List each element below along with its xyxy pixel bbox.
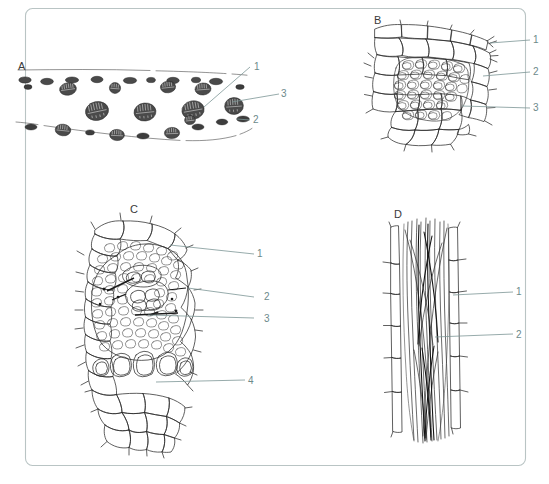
panel-d-letter: D [394, 208, 402, 220]
panel-a-label-1: 1 [254, 61, 260, 72]
plate-caption [0, 475, 549, 484]
panel-c-letter: C [130, 203, 138, 215]
plate-background [0, 0, 549, 484]
panel-c-label-2: 2 [264, 291, 270, 302]
illustration-plate: A [0, 0, 549, 484]
panel-b-label-2: 2 [533, 66, 539, 77]
panel-b-label-3: 3 [533, 102, 539, 113]
panel-c-label-1: 1 [257, 248, 263, 259]
panel-d-label-2: 2 [516, 329, 522, 340]
panel-c-label-3: 3 [264, 313, 270, 324]
panel-c-label-4: 4 [248, 375, 254, 386]
panel-a-label-2: 2 [253, 114, 259, 125]
panel-d-label-1: 1 [516, 286, 522, 297]
panel-a-label-3: 3 [281, 88, 287, 99]
panel-b-letter: B [374, 14, 381, 26]
panel-b-label-1: 1 [533, 34, 539, 45]
